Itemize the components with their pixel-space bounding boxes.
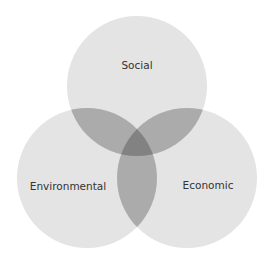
label-economic: Economic bbox=[183, 179, 234, 191]
venn-diagram: Social Environmental Economic bbox=[0, 0, 272, 263]
label-environmental: Environmental bbox=[30, 180, 106, 192]
label-social: Social bbox=[121, 59, 152, 71]
